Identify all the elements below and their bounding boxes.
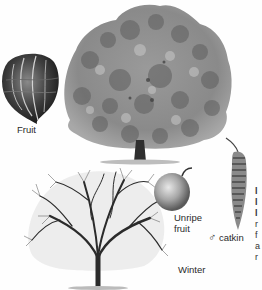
fruit-label: Fruit	[17, 124, 36, 135]
text-fragment: f	[255, 230, 258, 241]
text-fragment: l	[255, 186, 258, 197]
catkin-text: catkin	[219, 232, 244, 243]
winter-label: Winter	[178, 264, 205, 275]
unripe-fruit-label-line2: fruit	[174, 223, 190, 234]
catkin-label: ♂ catkin	[208, 232, 244, 243]
summer-tree-illustration	[60, 0, 235, 165]
unripe-fruit-illustration	[152, 164, 196, 212]
unripe-fruit-label-line1: Unripe	[174, 212, 202, 223]
male-catkin-illustration	[224, 136, 252, 232]
text-fragment: l	[255, 208, 258, 219]
text-fragment: a	[255, 241, 260, 252]
text-fragment: r	[255, 219, 258, 230]
winter-tree-illustration	[20, 160, 170, 290]
male-symbol-icon: ♂	[208, 231, 216, 243]
illustration-plate: Fruit	[0, 0, 262, 290]
text-fragment: r	[255, 252, 258, 263]
text-fragment: l	[255, 197, 258, 208]
walnut-fruit-illustration	[0, 50, 62, 125]
